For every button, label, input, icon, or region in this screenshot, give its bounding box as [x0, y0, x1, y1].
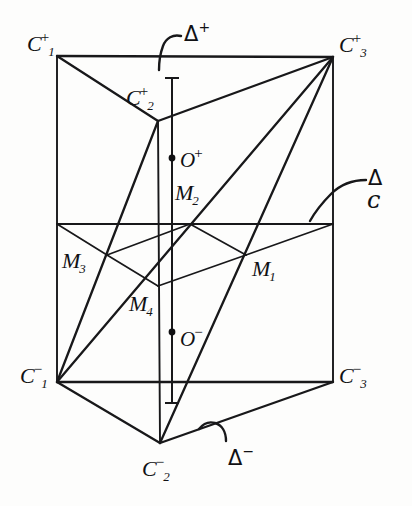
- edge-front-vertical: [158, 121, 160, 443]
- vertex-label-C3m-base: C: [339, 363, 354, 388]
- edge-quad-M2-M1: [190, 224, 246, 255]
- annotation-label-delta-minus: Δ−: [228, 444, 254, 469]
- edge-top-back-C1p-C3p: [57, 56, 333, 57]
- vertex-label-C2m-sub: 2: [163, 469, 170, 484]
- vertex-label-C2m-base: C: [142, 456, 157, 481]
- vertex-label-C3m-sup: −: [353, 361, 361, 377]
- midpoint-label-M3-base: M: [62, 248, 80, 273]
- vertex-label-C2p-sup: +: [140, 83, 148, 99]
- midpoint-label-M2-sub: 2: [192, 193, 199, 208]
- leader-delta-c: [310, 180, 366, 221]
- vertex-label-C3m-sub: 3: [360, 376, 367, 391]
- figure-root: C+1 C+2 C+3 C−1 C−2 C−3 M1 M2 M3 M4 O+ O…: [0, 0, 412, 506]
- axis-label-O-plus-base: O: [180, 148, 195, 172]
- midpoint-label-M1: M1: [252, 258, 276, 283]
- axis-label-O-minus-sup: −: [194, 324, 202, 340]
- vertex-label-C1p: C+1: [27, 30, 55, 58]
- vertex-label-C3m: C−3: [339, 362, 367, 390]
- annotation-label-script-c: ᴄ: [367, 188, 380, 212]
- edge-bottom-C1m-C2m: [57, 382, 160, 443]
- annotation-delta-minus-base: Δ: [228, 446, 242, 470]
- annotation-label-delta-plus: Δ+: [184, 20, 210, 45]
- vertex-label-C2p-sub: 2: [147, 98, 154, 113]
- midpoint-label-M3-sub: 3: [79, 261, 86, 276]
- annotation-delta-minus-sup: −: [242, 443, 254, 459]
- annotation-delta-plus-base: Δ: [184, 22, 198, 46]
- vertex-label-C1m-sup: −: [34, 361, 42, 377]
- vertex-label-C2p: C+2: [126, 84, 154, 112]
- midpoint-label-M1-base: M: [252, 256, 270, 281]
- axis-point-dot-O-minus: [169, 329, 176, 336]
- edge-bottom-C2m-C3m: [160, 382, 333, 443]
- vertex-label-C3p-sup: +: [353, 30, 361, 46]
- vertex-label-C1m-base: C: [20, 363, 35, 388]
- midpoint-label-M1-sub: 1: [269, 269, 276, 284]
- vertex-label-C3p-base: C: [339, 32, 354, 57]
- midpoint-label-M4-sub: 4: [146, 304, 153, 319]
- annotation-script-c-glyph: ᴄ: [367, 186, 380, 214]
- axis-label-O-plus: O+: [180, 146, 203, 171]
- vertex-label-C1p-sub: 1: [48, 44, 55, 59]
- midpoint-label-M4: M4: [129, 293, 153, 318]
- leader-delta-plus: [159, 35, 181, 70]
- vertex-label-C1m: C−1: [20, 362, 48, 390]
- midpoint-label-M4-base: M: [129, 291, 147, 316]
- axis-point-dot-O-plus: [169, 155, 176, 162]
- annotation-leaders: [159, 35, 366, 441]
- vertex-label-C1p-base: C: [27, 31, 42, 56]
- midpoint-label-M3: M3: [62, 250, 86, 275]
- axis-label-O-minus: O−: [180, 325, 203, 350]
- midpoint-label-M2: M2: [175, 182, 199, 207]
- edge-diagonal-C2m-C3p: [160, 57, 333, 443]
- vertex-label-C1p-sup: +: [41, 29, 49, 45]
- axis-label-O-minus-base: O: [180, 327, 195, 351]
- vertex-label-C1m-sub: 1: [41, 376, 48, 391]
- vertex-label-C2m-sup: −: [156, 454, 164, 470]
- axis-label-O-plus-sup: +: [194, 145, 202, 161]
- edge-M1-to-mid-right: [246, 224, 333, 255]
- vertex-label-C3p: C+3: [339, 31, 367, 59]
- annotation-delta-plus-sup: +: [198, 19, 210, 35]
- vertex-label-C2p-base: C: [126, 85, 141, 110]
- vertex-label-C3p-sub: 3: [360, 45, 367, 60]
- midpoint-label-M2-base: M: [175, 180, 193, 205]
- vertex-label-C2m: C−2: [142, 455, 170, 483]
